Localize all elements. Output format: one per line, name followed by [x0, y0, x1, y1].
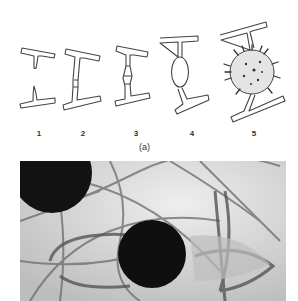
stage-diagram: 1 2 3 4 5 (a): [0, 0, 298, 150]
zygospore-drawing: [224, 45, 280, 94]
micrograph: [20, 161, 286, 301]
stage-2-drawing: [63, 49, 101, 110]
micrograph-svg: [20, 161, 286, 301]
stage-label-3: 3: [131, 129, 141, 138]
stage-label-5: 5: [249, 129, 259, 138]
stage-1-drawing: [20, 48, 55, 108]
stage-diagram-svg: [0, 0, 298, 150]
panel-a-caption: (a): [139, 142, 150, 152]
stage-label-2: 2: [78, 129, 88, 138]
stage-label-4: 4: [187, 129, 197, 138]
stage-4-drawing: [160, 36, 209, 114]
stage-label-1: 1: [34, 129, 44, 138]
stage-3-drawing: [115, 46, 150, 106]
